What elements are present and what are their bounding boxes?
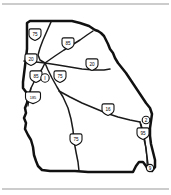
georgia-interstate-map: 75 85 20 20 85 75: [0, 0, 171, 195]
shield-label: 20: [28, 57, 34, 62]
shield-label: 95: [140, 131, 146, 136]
map-canvas: 75 85 20 20 85 75: [0, 0, 171, 195]
shield-label: 75: [32, 32, 38, 37]
marker-label: I: [44, 75, 45, 81]
shield-i95: 95: [137, 128, 149, 139]
marker-label: 9: [149, 166, 152, 171]
shield-label: 75: [73, 137, 79, 142]
shield-i16: 16: [102, 104, 114, 115]
shield-i20-west: 20: [25, 54, 37, 66]
marker-label: 2: [145, 118, 148, 123]
georgia-state-outline: [23, 21, 155, 172]
marker-savannah: 2: [142, 116, 150, 124]
marker-brunswick: 9: [146, 164, 153, 171]
shield-label: 85: [65, 41, 71, 46]
shield-i85-north: 85: [62, 38, 74, 50]
shield-label: 16: [105, 107, 111, 112]
shield-label: 20: [89, 62, 95, 67]
shield-i75-lower: 75: [70, 134, 82, 146]
shield-i185: 185: [26, 92, 41, 104]
marker-atlanta-hub: I: [41, 74, 49, 82]
shield-i20-east: 20: [86, 59, 98, 70]
shield-i75-hub: 75: [54, 71, 66, 82]
shield-label: 85: [33, 74, 39, 79]
shield-i75-north: 75: [29, 29, 41, 41]
shield-i85-south: 85: [30, 71, 42, 82]
shield-label: 75: [57, 74, 63, 79]
shield-label: 185: [30, 95, 37, 100]
